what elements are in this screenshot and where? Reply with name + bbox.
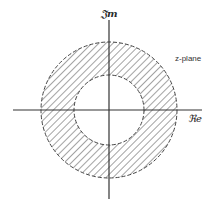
real-axis-label: ℜe <box>188 114 202 124</box>
z-plane-diagram: 𝔍m ℜe z-plane <box>0 0 215 203</box>
hatched-region-of-convergence <box>0 0 215 203</box>
plane-label: z-plane <box>175 55 201 63</box>
imaginary-axis-label: 𝔍m <box>101 9 118 19</box>
annulus-figure <box>0 0 215 203</box>
